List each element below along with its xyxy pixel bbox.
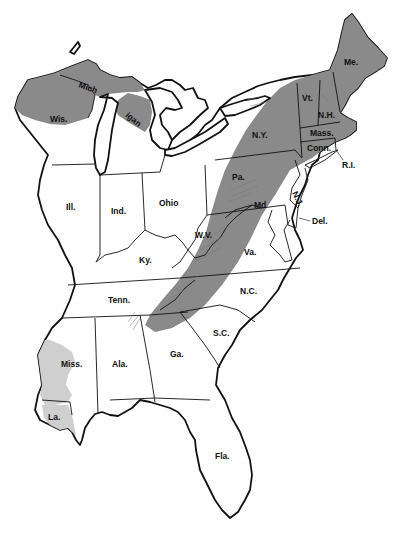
label-md: Md — [254, 200, 266, 210]
label-fla: Fla. — [215, 451, 230, 461]
label-la: La. — [48, 412, 60, 422]
label-ga: Ga. — [170, 349, 184, 359]
label-wis: Wis. — [50, 114, 67, 124]
leader-ri — [336, 150, 343, 160]
label-conn: Conn. — [307, 143, 331, 153]
label-sc: S.C. — [213, 328, 230, 338]
label-va: Va. — [244, 247, 256, 257]
label-wv: W.V. — [195, 230, 212, 240]
label-ri: R.I. — [342, 160, 355, 170]
label-ky: Ky. — [139, 255, 152, 265]
eastern-us-map: Wis. Mich igan Ill. Ind. Ohio Ky. Tenn. … — [0, 0, 407, 539]
label-ill: Ill. — [66, 202, 75, 212]
lake-superior-island — [70, 42, 80, 54]
label-me: Me. — [344, 57, 358, 67]
leader-del — [299, 218, 310, 221]
label-ind: Ind. — [111, 206, 126, 216]
label-del: Del. — [312, 216, 328, 226]
label-vt: Vt. — [302, 93, 313, 103]
label-miss: Miss. — [61, 359, 82, 369]
label-ohio: Ohio — [159, 198, 178, 208]
label-ala: Ala. — [112, 359, 128, 369]
label-ny: N.Y. — [252, 130, 268, 140]
label-tenn: Tenn. — [108, 295, 130, 305]
label-pa: Pa. — [232, 172, 245, 182]
label-mass: Mass. — [310, 128, 334, 138]
label-nc: N.C. — [240, 286, 257, 296]
label-nh: N.H. — [318, 110, 335, 120]
